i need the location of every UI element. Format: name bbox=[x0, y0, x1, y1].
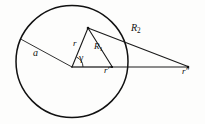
label-angle-gamma: γ bbox=[79, 53, 83, 63]
boundary-circle bbox=[16, 6, 128, 118]
apex-vertex-dot bbox=[87, 27, 90, 30]
label-vector-r-double-prime: r″ bbox=[182, 67, 189, 76]
label-distance-R2: R2 bbox=[131, 23, 141, 35]
label-vector-r-prime: r′ bbox=[104, 66, 109, 75]
figure-canvas bbox=[0, 0, 205, 124]
label-vector-r: r bbox=[73, 39, 77, 48]
label-distance-R2-subscript: 2 bbox=[137, 27, 141, 35]
radius-a-segment bbox=[22, 40, 73, 68]
label-distance-R1-subscript: 1 bbox=[100, 45, 103, 52]
label-radius-a: a bbox=[33, 48, 38, 58]
geometry-figure: a r γ R1 R2 r′ r″ bbox=[0, 0, 205, 124]
label-distance-R1: R1 bbox=[94, 42, 103, 52]
r-prime-vertex-dot bbox=[111, 66, 113, 68]
